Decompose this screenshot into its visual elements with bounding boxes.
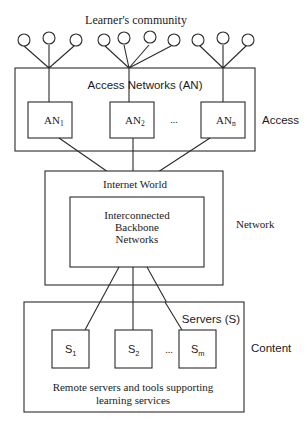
learner-group-3: [192, 32, 254, 69]
learner-group-2: [98, 31, 180, 69]
learner-icon: [217, 32, 229, 44]
servers-ellipsis: ...: [165, 344, 173, 355]
learner-group-1: [18, 32, 82, 69]
access-networks-label: Access Networks (AN): [87, 79, 202, 91]
diagram-canvas: Learner's community Access Netw: [0, 0, 307, 427]
content-side-label: Content: [251, 342, 292, 354]
learner-icon: [70, 34, 82, 46]
learner-icon: [98, 34, 110, 46]
learners-community-title: Learner's community: [85, 13, 187, 27]
backbone-label-line-2: Backbone: [115, 221, 159, 233]
learner-icon: [18, 34, 30, 46]
learner-icon: [192, 34, 204, 46]
backbone-label-line-1: Interconnected: [104, 209, 170, 221]
learner-icon: [242, 34, 254, 46]
servers-caption-line-1: Remote servers and tools supporting: [53, 381, 214, 393]
learner-icon: [144, 31, 156, 43]
learner-icon: [168, 34, 180, 46]
learner-icon: [118, 32, 130, 44]
learner-icon: [43, 32, 55, 44]
network-side-label: Network: [236, 218, 275, 230]
access-side-label: Access: [262, 114, 299, 126]
internet-world-label: Internet World: [103, 178, 167, 190]
backbone-label-line-3: Networks: [116, 233, 159, 245]
servers-caption-line-2: learning services: [96, 394, 170, 406]
access-ellipsis: ...: [170, 114, 178, 125]
servers-label: Servers (S): [182, 313, 240, 325]
